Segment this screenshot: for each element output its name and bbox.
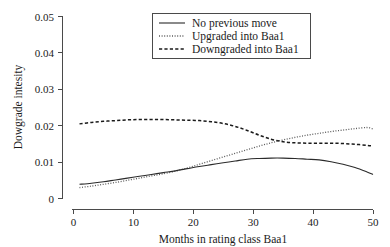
y-axis-title: Dowgrade intesity: [12, 64, 25, 149]
chart-figure: 0.05 0.04 0.03 0.02 0.01 0 0 10 20 30 40…: [0, 0, 390, 247]
y-tick-label-0.04: 0.04: [35, 47, 55, 59]
legend-label-upgraded-into-baa1: Upgraded into Baa1: [192, 30, 285, 43]
y-tick-label-0.03: 0.03: [35, 83, 55, 95]
series-line-downgraded-into-baa1: [79, 119, 373, 146]
x-axis-ticks: 0 10 20 30 40 50: [71, 210, 379, 229]
x-tick-label-50: 50: [368, 216, 380, 228]
line-chart-svg: 0.05 0.04 0.03 0.02 0.01 0 0 10 20 30 40…: [0, 0, 390, 247]
y-tick-label-0.01: 0.01: [35, 156, 54, 168]
x-tick-label-20: 20: [188, 216, 200, 228]
x-tick-label-0: 0: [71, 216, 77, 228]
chart-legend: No previous move Upgraded into Baa1 Down…: [153, 14, 311, 59]
x-tick-label-30: 30: [248, 216, 260, 228]
y-tick-label-0.05: 0.05: [35, 11, 55, 23]
y-tick-label-0.02: 0.02: [35, 120, 54, 132]
x-axis-title: Months in rating class Baa1: [159, 233, 288, 246]
x-tick-label-10: 10: [128, 216, 140, 228]
legend-label-no-previous-move: No previous move: [192, 17, 277, 30]
x-tick-label-40: 40: [308, 216, 320, 228]
y-axis-ticks: 0.05 0.04 0.03 0.02 0.01 0: [35, 11, 63, 205]
plot-series-group: [79, 119, 373, 187]
legend-label-downgraded-into-baa1: Downgraded into Baa1: [192, 43, 299, 56]
y-tick-label-0: 0: [49, 193, 55, 205]
